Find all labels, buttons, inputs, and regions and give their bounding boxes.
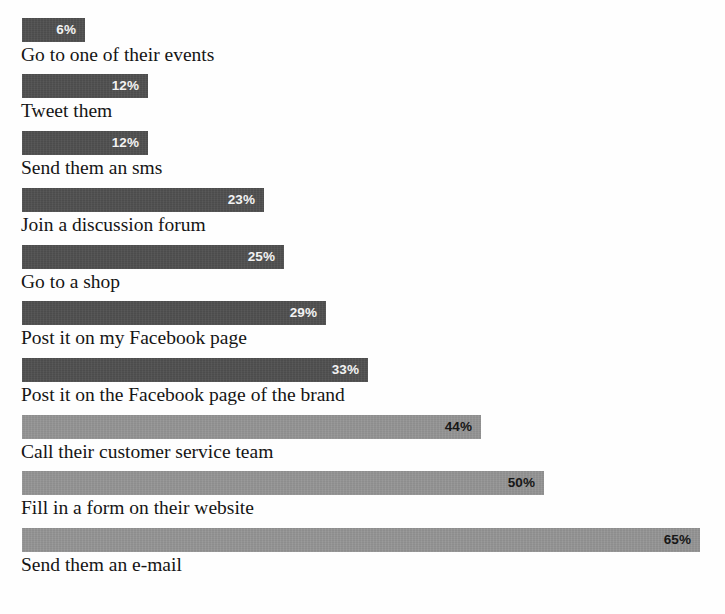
bar: 33% [22,358,368,382]
category-label: Post it on my Facebook page [21,327,247,348]
category-label: Send them an e-mail [21,554,182,575]
bar: 12% [22,131,148,155]
bar: 25% [22,245,284,269]
category-label: Post it on the Facebook page of the bran… [21,384,345,405]
bar: 6% [22,18,85,42]
bar-value-label: 12% [112,136,148,150]
horizontal-bar-chart: 6% Go to one of their events 12% Tweet t… [0,0,725,614]
bar: 65% [22,528,700,552]
category-label: Send them an sms [21,157,162,178]
bar: 12% [22,74,148,98]
bar-value-label: 44% [445,420,481,434]
category-label: Go to a shop [21,271,120,292]
bar: 29% [22,301,326,325]
bar: 50% [22,471,544,495]
bar-value-label: 29% [290,306,326,320]
category-label: Tweet them [21,100,112,121]
category-label: Go to one of their events [21,44,214,65]
category-label: Fill in a form on their website [21,497,254,518]
bar-value-label: 6% [56,23,85,37]
bar-value-label: 25% [248,250,284,264]
category-label: Call their customer service team [21,441,273,462]
bar-value-label: 12% [112,79,148,93]
bar: 23% [22,188,264,212]
bar: 44% [22,415,481,439]
bar-value-label: 23% [228,193,264,207]
category-label: Join a discussion forum [21,214,206,235]
bar-value-label: 33% [332,363,368,377]
bar-value-label: 50% [508,476,544,490]
bar-value-label: 65% [664,533,700,547]
